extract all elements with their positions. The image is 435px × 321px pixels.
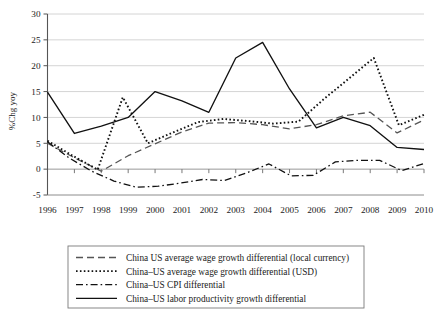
- x-tick-label: 2010: [415, 205, 434, 215]
- x-tick-label: 2006: [307, 205, 326, 215]
- x-tick-label: 1999: [119, 205, 138, 215]
- x-tick-label: 2003: [227, 205, 246, 215]
- x-tick-label: 2002: [200, 205, 219, 215]
- x-tick-label: 2009: [388, 205, 407, 215]
- y-axis-label: %Chg yoy: [7, 71, 17, 151]
- x-tick-label: 1997: [65, 205, 84, 215]
- legend-item-label: China–US labor productivity growth diffe…: [126, 294, 306, 304]
- axes-group: [48, 14, 425, 195]
- x-tick-label: 2001: [173, 205, 192, 215]
- series-line: [48, 112, 425, 171]
- y-axis-ticks-group: -5051015202530: [31, 9, 47, 200]
- y-axis-label-wrap: %Chg yoy: [2, 68, 18, 168]
- series-line: [48, 142, 425, 188]
- data-series-group: [48, 42, 425, 187]
- series-line: [48, 58, 425, 170]
- y-tick-label: 20: [31, 61, 41, 71]
- y-tick-label: 0: [36, 164, 41, 174]
- gridlines-group: [48, 14, 425, 169]
- y-tick-label: -5: [33, 190, 41, 200]
- y-tick-label: 15: [31, 87, 41, 97]
- x-tick-label: 2004: [253, 205, 272, 215]
- legend-item-label: China–US CPI differential: [126, 280, 225, 290]
- legend-group: China US average wage growth differentia…: [68, 246, 364, 308]
- x-tick-label: 2007: [334, 205, 353, 215]
- x-axis-ticks-group: 1996199719981999200020012002200320042005…: [38, 169, 433, 215]
- y-tick-label: 25: [31, 35, 41, 45]
- x-tick-label: 1996: [38, 205, 57, 215]
- line-chart-svg: -5051015202530 1996199719981999200020012…: [0, 0, 435, 321]
- series-line: [48, 42, 425, 149]
- y-tick-label: 10: [31, 113, 41, 123]
- x-tick-label: 1998: [92, 205, 111, 215]
- x-tick-label: 2000: [146, 205, 165, 215]
- y-tick-label: 30: [31, 9, 41, 19]
- legend-item-label: China US average wage growth differentia…: [126, 253, 349, 264]
- x-tick-label: 2008: [361, 205, 380, 215]
- chart-figure: %Chg yoy -5051015202530 1996199719981999…: [0, 0, 435, 321]
- legend-item-label: China–US average wage growth differentia…: [126, 267, 317, 278]
- y-tick-label: 5: [36, 139, 41, 149]
- x-tick-label: 2005: [280, 205, 299, 215]
